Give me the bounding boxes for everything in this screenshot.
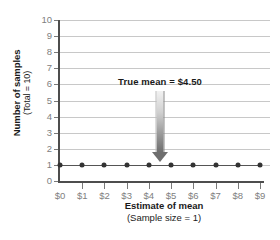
x-tick bbox=[82, 183, 83, 189]
y-tick-label: 7 bbox=[47, 64, 52, 74]
annotation-arrow-shaft bbox=[156, 91, 165, 152]
y-axis-label-sub: (Total = 10) bbox=[22, 50, 33, 136]
y-tick-label: 9 bbox=[47, 31, 52, 41]
x-tick bbox=[260, 183, 261, 189]
data-point bbox=[213, 162, 218, 167]
y-axis-label: Number of samples (Total = 10) bbox=[0, 0, 44, 186]
x-tick bbox=[127, 183, 128, 189]
series-connector-line bbox=[60, 165, 260, 166]
x-tick bbox=[149, 183, 150, 189]
y-tick-label: 10 bbox=[41, 15, 52, 25]
annotation-arrow-head-icon bbox=[152, 152, 168, 162]
y-tick-label: 4 bbox=[47, 112, 52, 122]
y-tick-label: 1 bbox=[47, 160, 52, 170]
data-point bbox=[124, 162, 129, 167]
y-tick-label: 6 bbox=[47, 80, 52, 90]
x-tick bbox=[193, 183, 194, 189]
data-point bbox=[169, 162, 174, 167]
data-point bbox=[102, 162, 107, 167]
y-axis-label-main: Number of samples bbox=[11, 50, 22, 136]
x-axis-line bbox=[58, 181, 264, 183]
chart-figure: Number of samples (Total = 10) 012345678… bbox=[0, 0, 280, 240]
y-axis-line bbox=[58, 20, 60, 182]
data-point bbox=[58, 162, 63, 167]
x-tick bbox=[238, 183, 239, 189]
data-point bbox=[235, 162, 240, 167]
data-point bbox=[258, 162, 263, 167]
y-tick-label: 0 bbox=[47, 176, 52, 186]
x-axis-label-main: Estimate of mean bbox=[58, 200, 270, 212]
y-tick-label: 8 bbox=[47, 47, 52, 57]
x-tick bbox=[104, 183, 105, 189]
x-tick bbox=[171, 183, 172, 189]
y-tick-label: 3 bbox=[47, 128, 52, 138]
y-tick-label: 5 bbox=[47, 96, 52, 106]
gridline bbox=[58, 20, 270, 21]
x-axis-label: Estimate of mean (Sample size = 1) bbox=[58, 200, 270, 225]
x-tick bbox=[216, 183, 217, 189]
annotation-label: True mean = $4.50 bbox=[118, 76, 202, 87]
data-point bbox=[80, 162, 85, 167]
gridline bbox=[58, 52, 270, 53]
data-point bbox=[191, 162, 196, 167]
gridline bbox=[58, 36, 270, 37]
data-point bbox=[146, 162, 151, 167]
plot-area: 012345678910 $0$1$2$3$4$5$6$7$8$9 True m… bbox=[58, 20, 270, 181]
y-tick-label: 2 bbox=[47, 144, 52, 154]
x-axis-label-sub: (Sample size = 1) bbox=[58, 212, 270, 224]
gridline bbox=[58, 68, 270, 69]
